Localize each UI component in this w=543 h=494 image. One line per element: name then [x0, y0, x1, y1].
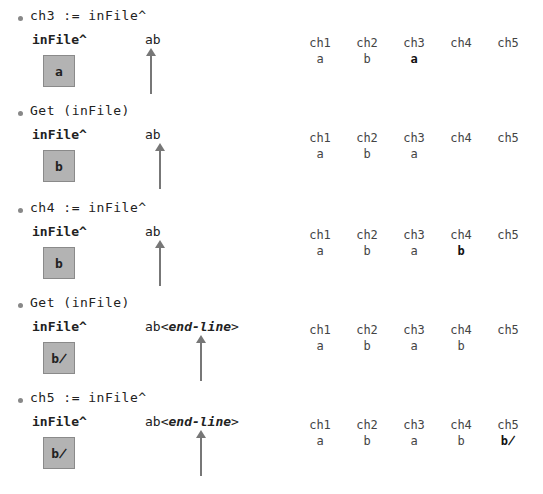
variable-ch5: ch5	[488, 131, 528, 147]
buffer-box: b̸	[43, 342, 75, 374]
variable-name: ch2	[347, 418, 387, 432]
variable-name: ch3	[394, 131, 434, 145]
variable-value: a	[394, 244, 434, 258]
variable-name: ch3	[394, 418, 434, 432]
buffer-label: inFile^	[32, 127, 87, 142]
variable-value: b	[347, 52, 387, 66]
variable-name: ch2	[347, 228, 387, 242]
file-position-arrow-icon	[159, 246, 161, 286]
variable-name: ch5	[488, 36, 528, 50]
variable-name: ch4	[441, 131, 481, 145]
variable-ch1: ch1 a	[300, 323, 340, 353]
step-3: ch4 := inFile^ inFile^ b ab ch1 a ch2 b …	[0, 200, 543, 294]
variable-ch2: ch2 b	[347, 36, 387, 66]
variable-value: a	[300, 52, 340, 66]
variable-name: ch4	[441, 418, 481, 432]
variable-value: a	[394, 52, 434, 66]
buffer-value: b	[55, 159, 63, 174]
bullet-icon	[18, 398, 23, 403]
file-contents: ab<end-line>	[145, 319, 239, 334]
buffer-box: a	[43, 55, 75, 87]
variable-ch3: ch3 a	[394, 36, 434, 66]
buffer-box: b	[43, 247, 75, 279]
variable-value: a	[300, 339, 340, 353]
file-contents: ab	[145, 32, 161, 47]
bullet-icon	[18, 16, 23, 21]
variable-name: ch1	[300, 228, 340, 242]
variable-name: ch3	[394, 36, 434, 50]
statement: ch4 := inFile^	[30, 200, 147, 215]
file-text: ab	[145, 32, 161, 47]
variable-ch3: ch3 a	[394, 131, 434, 161]
file-text: ab<	[145, 414, 168, 429]
file-contents: ab<end-line>	[145, 414, 239, 429]
variable-name: ch5	[488, 323, 528, 337]
variable-ch3: ch3 a	[394, 323, 434, 353]
step-1: ch3 := inFile^ inFile^ a ab ch1 a ch2 b …	[0, 8, 543, 102]
statement: Get (inFile)	[30, 295, 130, 310]
variable-name: ch5	[488, 131, 528, 145]
variable-ch1: ch1 a	[300, 418, 340, 448]
variable-value: b	[441, 244, 481, 258]
statement: Get (inFile)	[30, 103, 130, 118]
buffer-value: b	[55, 256, 63, 271]
end-line-marker: end-line	[168, 319, 231, 334]
variable-name: ch4	[441, 323, 481, 337]
variable-value: b	[441, 434, 481, 448]
variable-ch4: ch4 b	[441, 228, 481, 258]
variable-name: ch4	[441, 228, 481, 242]
variable-value: b	[347, 434, 387, 448]
step-4: Get (inFile) inFile^ b̸ ab<end-line> ch1…	[0, 295, 543, 389]
variable-value: b	[347, 147, 387, 161]
variable-ch5: ch5	[488, 323, 528, 339]
variable-ch4: ch4	[441, 131, 481, 147]
variable-name: ch5	[488, 418, 528, 432]
statement: ch3 := inFile^	[30, 8, 147, 23]
variable-name: ch3	[394, 323, 434, 337]
file-text: ab	[145, 224, 161, 239]
variable-value: b̸	[488, 434, 528, 448]
variable-value: b	[441, 339, 481, 353]
file-close: >	[231, 414, 239, 429]
variable-name: ch4	[441, 36, 481, 50]
variable-value: a	[300, 244, 340, 258]
buffer-label: inFile^	[32, 224, 87, 239]
file-position-arrow-icon	[159, 149, 161, 189]
variable-value: b	[347, 244, 387, 258]
file-contents: ab	[145, 127, 161, 142]
buffer-value: a	[55, 64, 63, 79]
file-contents: ab	[145, 224, 161, 239]
variable-name: ch2	[347, 131, 387, 145]
variable-name: ch1	[300, 131, 340, 145]
file-text: ab	[145, 127, 161, 142]
file-position-arrow-icon	[150, 54, 152, 94]
buffer-label: inFile^	[32, 319, 87, 334]
step-2: Get (inFile) inFile^ b ab ch1 a ch2 b ch…	[0, 103, 543, 197]
bullet-icon	[18, 208, 23, 213]
variable-value: a	[394, 147, 434, 161]
statement: ch5 := inFile^	[30, 390, 147, 405]
bullet-icon	[18, 111, 23, 116]
variable-value: b	[347, 339, 387, 353]
variable-ch5: ch5	[488, 36, 528, 52]
variable-ch4: ch4 b	[441, 418, 481, 448]
variable-value: a	[394, 339, 434, 353]
buffer-value: b̸	[51, 446, 67, 461]
file-close: >	[231, 319, 239, 334]
variable-name: ch3	[394, 228, 434, 242]
variable-ch5: ch5	[488, 228, 528, 244]
variable-ch2: ch2 b	[347, 418, 387, 448]
step-5: ch5 := inFile^ inFile^ b̸ ab<end-line> c…	[0, 390, 543, 484]
buffer-box: b	[43, 150, 75, 182]
variable-ch1: ch1 a	[300, 36, 340, 66]
variable-value: a	[300, 434, 340, 448]
variable-ch5: ch5 b̸	[488, 418, 528, 448]
buffer-value: b̸	[51, 351, 67, 366]
variable-name: ch1	[300, 323, 340, 337]
bullet-icon	[18, 303, 23, 308]
variable-name: ch5	[488, 228, 528, 242]
variable-name: ch1	[300, 36, 340, 50]
variable-name: ch2	[347, 36, 387, 50]
variable-ch3: ch3 a	[394, 228, 434, 258]
variable-ch2: ch2 b	[347, 323, 387, 353]
